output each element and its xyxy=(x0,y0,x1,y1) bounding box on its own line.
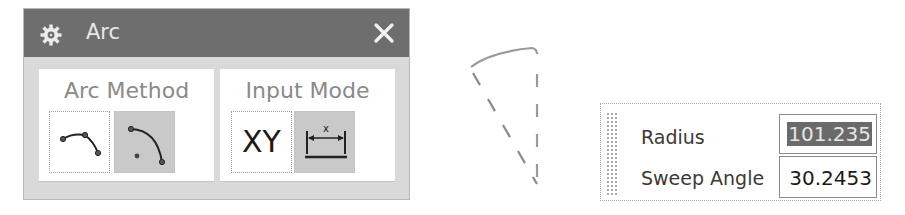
arc-preview xyxy=(460,40,550,190)
center-arc-icon xyxy=(115,112,176,174)
input-mode-panel: Input Mode XY x xyxy=(220,69,395,181)
arc-dialog: Arc Arc Method Input Mode XY xyxy=(23,8,410,200)
radius-label: Radius xyxy=(641,125,705,149)
sweep-angle-value: 30.2453 xyxy=(789,166,872,190)
dimension-icon: x xyxy=(295,112,356,174)
drag-handle[interactable] xyxy=(606,112,618,196)
xy-label: XY xyxy=(232,124,291,160)
radius-input[interactable]: 101.235 xyxy=(779,114,877,154)
close-icon[interactable] xyxy=(373,22,395,44)
arc-method-panel: Arc Method xyxy=(39,69,214,181)
three-point-arc-button[interactable] xyxy=(49,111,110,173)
sweep-angle-input[interactable]: 30.2453 xyxy=(779,156,877,198)
coordinate-mode-button[interactable]: XY xyxy=(231,111,292,173)
center-arc-button[interactable] xyxy=(114,111,175,173)
radius-value: 101.235 xyxy=(787,122,872,146)
three-point-arc-icon xyxy=(50,112,111,174)
dimension-x-label: x xyxy=(323,123,329,134)
dialog-titlebar[interactable]: Arc xyxy=(24,9,409,57)
sweep-angle-label: Sweep Angle xyxy=(641,166,764,190)
input-mode-label: Input Mode xyxy=(220,78,395,104)
dialog-title: Arc xyxy=(86,19,120,45)
parameter-mode-button[interactable]: x xyxy=(294,111,355,173)
gear-icon xyxy=(40,24,62,46)
arc-method-label: Arc Method xyxy=(39,78,214,104)
dynamic-input-box: Radius 101.235 Sweep Angle 30.2453 xyxy=(600,103,881,201)
